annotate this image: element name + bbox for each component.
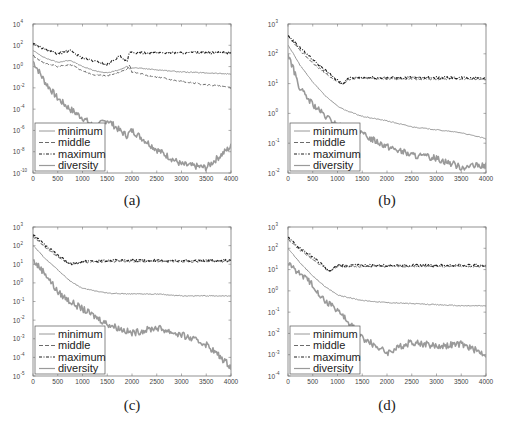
y-tick-label: 10 bbox=[268, 170, 276, 177]
x-tick-label: 4000 bbox=[224, 378, 239, 385]
panel-caption-a: (a) bbox=[102, 192, 162, 209]
svg-text:1: 1 bbox=[276, 79, 279, 84]
panel-caption-b: (b) bbox=[357, 192, 417, 209]
chart-panel-a: 0500100015002000250030003500400010410210… bbox=[0, 10, 240, 195]
legend-label-minimum: minimum bbox=[58, 328, 103, 340]
svg-text:2: 2 bbox=[276, 49, 279, 54]
y-tick-label: 10 bbox=[268, 373, 276, 380]
x-tick-label: 1000 bbox=[75, 378, 90, 385]
x-tick-label: 500 bbox=[307, 175, 318, 182]
x-tick-label: 4000 bbox=[224, 175, 239, 182]
svg-text:-4: -4 bbox=[276, 371, 280, 376]
svg-text:-2: -2 bbox=[276, 328, 280, 333]
svg-text:-2: -2 bbox=[21, 315, 25, 320]
chart-panel-d: 0500100015002000250030003500400010310210… bbox=[255, 213, 495, 398]
x-tick-label: 0 bbox=[286, 378, 290, 385]
x-tick-label: 500 bbox=[307, 378, 318, 385]
y-tick-label: 10 bbox=[13, 317, 21, 324]
svg-text:0: 0 bbox=[21, 62, 24, 67]
chart-svg: 0500100015002000250030003500400010310210… bbox=[255, 213, 495, 398]
y-tick-label: 10 bbox=[13, 106, 21, 113]
svg-text:2: 2 bbox=[21, 40, 24, 45]
svg-text:2: 2 bbox=[21, 241, 24, 246]
legend-label-maximum: maximum bbox=[58, 148, 106, 160]
y-tick-label: 10 bbox=[13, 63, 21, 70]
svg-text:-3: -3 bbox=[276, 350, 280, 355]
legend-label-middle: middle bbox=[58, 339, 90, 351]
y-tick-label: 10 bbox=[268, 309, 276, 316]
svg-text:0: 0 bbox=[276, 286, 279, 291]
y-tick-label: 10 bbox=[13, 242, 21, 249]
svg-text:-2: -2 bbox=[21, 83, 25, 88]
svg-text:-2: -2 bbox=[276, 168, 280, 173]
x-tick-label: 1500 bbox=[355, 378, 370, 385]
x-tick-label: 2500 bbox=[405, 378, 420, 385]
y-tick-label: 10 bbox=[268, 80, 276, 87]
x-tick-label: 2500 bbox=[405, 175, 420, 182]
cropped-text-strip bbox=[0, 0, 507, 5]
x-tick-label: 4000 bbox=[479, 175, 494, 182]
x-tick-label: 1000 bbox=[330, 378, 345, 385]
panel-caption-d: (d) bbox=[357, 397, 417, 414]
legend-label-diversity: diversity bbox=[58, 159, 99, 171]
svg-text:-4: -4 bbox=[21, 104, 25, 109]
x-tick-label: 4000 bbox=[479, 378, 494, 385]
y-tick-label: 10 bbox=[13, 127, 21, 134]
y-tick-label: 10 bbox=[13, 298, 21, 305]
x-tick-label: 0 bbox=[31, 378, 35, 385]
y-tick-label: 10 bbox=[13, 84, 21, 91]
y-tick-label: 10 bbox=[13, 148, 21, 155]
panel-caption-c: (c) bbox=[102, 397, 162, 414]
chart-svg: 0500100015002000250030003500400010410210… bbox=[0, 10, 240, 195]
chart-panel-c: 0500100015002000250030003500400010310210… bbox=[0, 213, 240, 398]
svg-text:2: 2 bbox=[276, 243, 279, 248]
x-tick-label: 0 bbox=[286, 175, 290, 182]
x-tick-label: 500 bbox=[52, 175, 63, 182]
chart-panel-b: 0500100015002000250030003500400010310210… bbox=[255, 10, 495, 195]
x-tick-label: 3000 bbox=[429, 378, 444, 385]
y-tick-label: 10 bbox=[268, 110, 276, 117]
legend-label-minimum: minimum bbox=[58, 125, 103, 137]
x-tick-label: 2000 bbox=[380, 175, 395, 182]
y-tick-label: 10 bbox=[268, 21, 276, 28]
y-tick-label: 10 bbox=[13, 42, 21, 49]
y-tick-label: 10 bbox=[268, 266, 276, 273]
legend-label-minimum: minimum bbox=[313, 125, 358, 137]
x-tick-label: 1500 bbox=[100, 175, 115, 182]
x-tick-label: 1000 bbox=[330, 175, 345, 182]
svg-text:3: 3 bbox=[276, 222, 279, 227]
svg-text:0: 0 bbox=[276, 108, 279, 113]
x-tick-label: 3500 bbox=[454, 175, 469, 182]
svg-text:-6: -6 bbox=[21, 125, 25, 130]
y-tick-label: 10 bbox=[268, 50, 276, 57]
y-tick-label: 10 bbox=[13, 224, 21, 231]
legend-label-minimum: minimum bbox=[313, 328, 358, 340]
legend-label-diversity: diversity bbox=[58, 362, 99, 374]
svg-text:1: 1 bbox=[276, 265, 279, 270]
chart-svg: 0500100015002000250030003500400010310210… bbox=[255, 10, 495, 195]
legend-label-diversity: diversity bbox=[313, 362, 354, 374]
legend-label-maximum: maximum bbox=[58, 351, 106, 363]
x-tick-label: 2500 bbox=[150, 378, 165, 385]
svg-text:-1: -1 bbox=[21, 297, 25, 302]
legend: minimummiddlemaximumdiversity bbox=[290, 123, 361, 171]
y-tick-label: 10 bbox=[13, 373, 21, 380]
legend-label-diversity: diversity bbox=[313, 159, 354, 171]
svg-text:3: 3 bbox=[21, 222, 24, 227]
svg-text:-10: -10 bbox=[21, 168, 28, 173]
y-tick-label: 10 bbox=[268, 330, 276, 337]
x-tick-label: 3000 bbox=[429, 175, 444, 182]
legend-label-middle: middle bbox=[313, 136, 345, 148]
legend: minimummiddlemaximumdiversity bbox=[35, 123, 106, 171]
x-tick-label: 3500 bbox=[454, 378, 469, 385]
y-tick-label: 10 bbox=[268, 140, 276, 147]
svg-text:4: 4 bbox=[21, 19, 24, 24]
x-tick-label: 1500 bbox=[100, 378, 115, 385]
svg-text:1: 1 bbox=[21, 259, 24, 264]
y-tick-label: 10 bbox=[13, 170, 21, 177]
x-tick-label: 1500 bbox=[355, 175, 370, 182]
x-tick-label: 2500 bbox=[150, 175, 165, 182]
x-tick-label: 2000 bbox=[125, 378, 140, 385]
x-tick-label: 2000 bbox=[380, 378, 395, 385]
x-tick-label: 3000 bbox=[174, 378, 189, 385]
